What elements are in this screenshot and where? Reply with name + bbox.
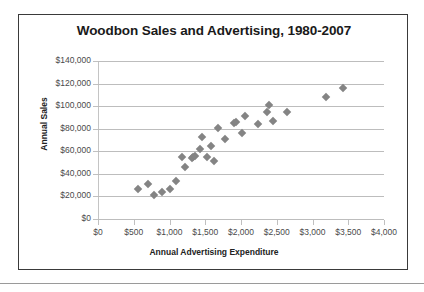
y-axis-tick-label: $20,000: [29, 190, 91, 200]
y-axis-tick-label: $140,000: [29, 55, 91, 65]
x-axis-tick: [241, 220, 242, 225]
scatter-point: [241, 112, 249, 120]
gridline-y: [98, 61, 384, 62]
x-axis-tick: [98, 220, 99, 225]
scatter-point: [157, 188, 165, 196]
gridline-y: [98, 196, 384, 197]
plot-area: [98, 61, 384, 219]
scatter-point: [214, 123, 222, 131]
y-axis-tick-label: $120,000: [29, 78, 91, 88]
x-axis-tick: [384, 220, 385, 225]
chart-container: Woodbon Sales and Advertising, 1980-2007…: [18, 14, 408, 270]
scatter-point: [269, 117, 277, 125]
scatter-point: [178, 153, 186, 161]
y-axis-tick-label: $100,000: [29, 100, 91, 110]
x-axis-tick: [170, 220, 171, 225]
scatter-point: [283, 108, 291, 116]
x-axis-tick-label: $4,000: [361, 227, 407, 237]
page-divider: [0, 283, 424, 284]
x-axis-tick: [205, 220, 206, 225]
scatter-point: [221, 135, 229, 143]
x-axis-tick: [277, 220, 278, 225]
x-axis-tick: [313, 220, 314, 225]
gridline-y: [98, 106, 384, 107]
gridline-y: [98, 219, 384, 220]
scatter-point: [172, 176, 180, 184]
scatter-point: [254, 120, 262, 128]
scatter-point: [237, 129, 245, 137]
x-axis-tick: [134, 220, 135, 225]
scatter-point: [198, 132, 206, 140]
scatter-point: [134, 184, 142, 192]
y-axis-tick-label: $60,000: [29, 145, 91, 155]
y-axis-tick-label: $40,000: [29, 168, 91, 178]
scatter-point: [144, 180, 152, 188]
scatter-point: [207, 141, 215, 149]
scatter-point: [210, 157, 218, 165]
gridline-y: [98, 151, 384, 152]
y-axis-tick-label: $80,000: [29, 123, 91, 133]
x-axis-tick: [348, 220, 349, 225]
gridline-y: [98, 174, 384, 175]
scatter-point: [263, 108, 271, 116]
scatter-point: [322, 93, 330, 101]
page-root: Woodbon Sales and Advertising, 1980-2007…: [0, 0, 424, 292]
scatter-point: [338, 84, 346, 92]
scatter-point: [180, 163, 188, 171]
y-axis-tick-label: $0: [29, 213, 91, 223]
